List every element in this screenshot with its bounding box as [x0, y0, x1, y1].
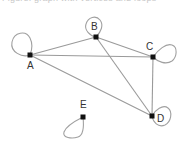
edge-b-c	[96, 37, 153, 57]
loop-e	[64, 117, 84, 138]
edges-group	[30, 37, 153, 116]
node-e	[81, 115, 86, 120]
node-label-e: E	[80, 99, 87, 110]
node-c	[151, 55, 156, 60]
edge-c-d	[152, 57, 153, 116]
nodes-group	[28, 35, 156, 120]
graph-diagram: ABCDE	[0, 0, 183, 151]
node-a	[28, 53, 33, 58]
loop-c	[153, 45, 176, 63]
loop-a	[12, 33, 32, 56]
node-label-b: B	[91, 21, 98, 32]
edge-a-d	[30, 55, 152, 116]
edge-a-b	[30, 37, 96, 55]
node-b	[94, 35, 99, 40]
node-label-c: C	[146, 41, 153, 52]
node-label-d: D	[157, 113, 164, 124]
edge-a-c	[30, 55, 153, 57]
node-d	[150, 114, 155, 119]
edge-b-d	[96, 37, 152, 116]
node-label-a: A	[27, 60, 34, 71]
